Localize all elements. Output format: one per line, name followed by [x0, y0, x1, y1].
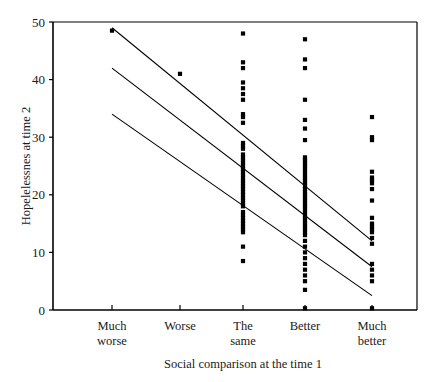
- scatter-plot-figure: 01020304050MuchworseWorseThesameBetterMu…: [0, 0, 435, 382]
- data-point: [241, 60, 245, 64]
- data-point: [178, 72, 182, 76]
- data-point: [370, 236, 374, 240]
- data-point: [370, 198, 374, 202]
- data-point: [370, 216, 374, 220]
- data-point: [110, 29, 114, 33]
- plot-canvas: 01020304050MuchworseWorseThesameBetterMu…: [0, 0, 435, 382]
- x-category-label-0: Much: [97, 319, 127, 333]
- data-point: [370, 181, 374, 185]
- data-point: [303, 250, 307, 254]
- data-point: [370, 115, 374, 119]
- data-point: [370, 268, 374, 272]
- data-point: [241, 204, 245, 208]
- data-point: [303, 126, 307, 130]
- data-point: [303, 118, 307, 122]
- data-point: [303, 306, 307, 310]
- data-point: [370, 262, 374, 266]
- data-point: [241, 98, 245, 102]
- data-point: [303, 268, 307, 272]
- data-point: [370, 242, 374, 246]
- data-point: [241, 147, 245, 151]
- data-point: [303, 138, 307, 142]
- data-point: [241, 259, 245, 263]
- data-point: [241, 245, 245, 249]
- data-point: [370, 230, 374, 234]
- data-point: [303, 279, 307, 283]
- x-axis-title: Social comparison at the time 1: [164, 357, 322, 371]
- data-point: [370, 306, 374, 310]
- data-point: [303, 262, 307, 266]
- data-point: [241, 31, 245, 35]
- data-point: [303, 273, 307, 277]
- data-point: [370, 187, 374, 191]
- data-point: [241, 115, 245, 119]
- y-tick-label-20: 20: [32, 187, 45, 202]
- data-point: [241, 86, 245, 90]
- data-point: [303, 245, 307, 249]
- x-category-label-2: The: [233, 319, 253, 333]
- y-tick-label-40: 40: [32, 72, 45, 87]
- data-point: [241, 66, 245, 70]
- data-point: [370, 279, 374, 283]
- x-category-label-4-line2: better: [358, 334, 387, 348]
- x-category-label-3: Better: [290, 319, 321, 333]
- data-point: [303, 66, 307, 70]
- data-point: [303, 239, 307, 243]
- data-point: [303, 57, 307, 61]
- data-point: [303, 37, 307, 41]
- y-axis-title: Hopelelessnes at time 2: [19, 107, 33, 225]
- x-category-label-0-line2: worse: [97, 334, 127, 348]
- data-point: [241, 80, 245, 84]
- y-tick-label-30: 30: [32, 130, 45, 145]
- data-point: [241, 92, 245, 96]
- y-tick-label-10: 10: [32, 245, 45, 260]
- data-point: [303, 233, 307, 237]
- data-point: [241, 230, 245, 234]
- data-point: [370, 138, 374, 142]
- x-category-label-1: Worse: [164, 319, 196, 333]
- y-tick-label-50: 50: [32, 15, 45, 30]
- x-category-label-4: Much: [357, 319, 387, 333]
- data-point: [370, 170, 374, 174]
- data-point: [241, 121, 245, 125]
- data-point: [303, 256, 307, 260]
- y-tick-label-0: 0: [39, 303, 46, 318]
- upper-confidence-line: [112, 28, 372, 241]
- x-category-label-2-line2: same: [230, 334, 256, 348]
- data-point: [303, 288, 307, 292]
- data-point: [303, 98, 307, 102]
- data-point: [370, 273, 374, 277]
